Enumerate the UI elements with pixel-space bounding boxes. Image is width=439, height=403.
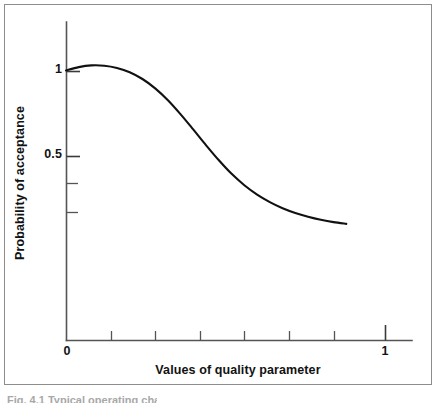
y-tick-label-1: 1 xyxy=(44,62,62,76)
figure-caption-clipped: Fig. 4.1 Typical operating characteristi… xyxy=(7,395,157,403)
x-tick-label-1: 1 xyxy=(376,344,394,358)
y-axis-ticks xyxy=(67,72,81,213)
figure-container: 1 0.5 0 1 Probability of acceptance Valu… xyxy=(0,0,439,403)
y-axis-title: Probability of acceptance xyxy=(13,103,27,263)
oc-curve-path xyxy=(66,65,346,224)
x-axis-title: Values of quality parameter xyxy=(66,363,410,377)
oc-curve-plot xyxy=(0,0,439,403)
x-axis-ticks xyxy=(112,325,386,341)
y-tick-label-05: 0.5 xyxy=(30,147,62,161)
x-tick-label-0: 0 xyxy=(58,344,76,358)
